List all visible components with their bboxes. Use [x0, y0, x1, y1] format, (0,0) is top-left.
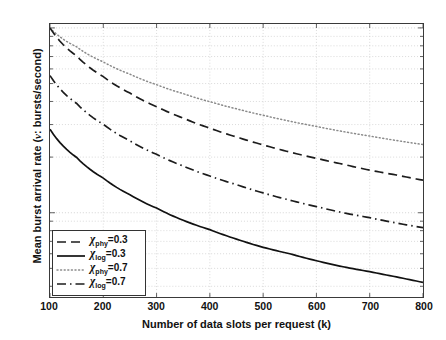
- legend-item-log-0.7[interactable]: χlog=0.7: [56, 277, 141, 291]
- curve-chi_phy_03: [50, 28, 423, 180]
- legend-value: =0.3: [108, 234, 128, 245]
- chi-symbol: χlog: [90, 247, 106, 259]
- legend-swatch-dashed: [56, 236, 86, 248]
- x-tick-label: 100: [40, 300, 58, 312]
- y-axis-label-suffix: : bursts/second): [31, 48, 43, 134]
- x-tick-label: 700: [362, 300, 380, 312]
- y-axis-label-prefix: Mean burst arrival rate (: [31, 139, 43, 264]
- x-tick-label: 200: [94, 300, 112, 312]
- nu-symbol: ν: [31, 134, 43, 139]
- chart-figure: Number of data slots per request (k) Mea…: [0, 0, 446, 340]
- x-tick-label: 300: [147, 300, 165, 312]
- curve-chi_log_07: [50, 76, 423, 228]
- chi-symbol: χlog: [90, 275, 106, 287]
- x-tick-label: 400: [201, 300, 219, 312]
- chi-subscript: log: [95, 283, 106, 290]
- x-tick-label: 600: [308, 300, 326, 312]
- legend-swatch-solid: [56, 250, 86, 262]
- chart-legend: χphy=0.3χlog=0.3χphy=0.7χlog=0.7: [52, 230, 146, 296]
- legend-swatch-dashdot: [56, 278, 86, 290]
- legend-swatch-dotted: [56, 264, 86, 276]
- chi-symbol: χphy: [90, 233, 108, 245]
- x-axis-label: Number of data slots per request (k): [49, 318, 424, 330]
- legend-value: =0.3: [106, 248, 126, 259]
- chi-symbol: χphy: [90, 261, 108, 273]
- x-tick-label: 800: [415, 300, 433, 312]
- y-axis-label: Mean burst arrival rate (ν: bursts/secon…: [31, 31, 43, 281]
- legend-label: χlog=0.7: [90, 276, 126, 291]
- x-tick-label: 500: [255, 300, 273, 312]
- legend-value: =0.7: [108, 262, 128, 273]
- legend-value: =0.7: [106, 276, 126, 287]
